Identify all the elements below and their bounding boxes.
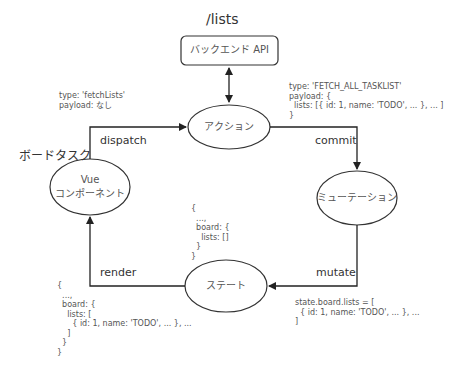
initial-state-annotation: { ..., board: { lists: [] } } bbox=[191, 204, 230, 261]
api-node-label: バックエンド API bbox=[181, 44, 278, 56]
endpoint-label: /lists bbox=[206, 11, 239, 28]
vue-node-label-line2: コンポーネント bbox=[50, 188, 130, 200]
vue-node-label-line1: Vue bbox=[50, 174, 130, 186]
render-state-annotation: { ..., board: { lists: [ { id: 1, name: … bbox=[57, 281, 192, 357]
commit-payload-annotation: type: 'FETCH_ALL_TASKLIST' payload: { li… bbox=[289, 82, 443, 120]
mutate-label: mutate bbox=[316, 266, 356, 279]
commit-label: commit bbox=[315, 134, 357, 147]
dispatch-label: dispatch bbox=[100, 134, 147, 147]
mutation-node-label: ミューテーション bbox=[317, 192, 397, 204]
mutate-payload-annotation: state.board.lists = [ { id: 1, name: 'TO… bbox=[295, 298, 419, 327]
action-node-label: アクション bbox=[188, 121, 270, 133]
render-label: render bbox=[100, 266, 136, 279]
component-name-label: ボードタスク bbox=[19, 149, 91, 163]
vue-component-node bbox=[50, 159, 130, 215]
dispatch-payload-annotation: type: 'fetchLists' payload: なし bbox=[59, 91, 125, 110]
state-node-label: ステート bbox=[185, 280, 267, 292]
